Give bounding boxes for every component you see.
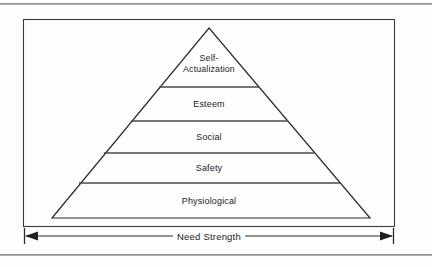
pyramid-diagram <box>0 0 432 267</box>
axis-arrowhead-right <box>380 232 393 241</box>
figure-page: Self- Actualization Esteem Social Safety… <box>0 0 432 267</box>
axis-arrowhead-left <box>25 232 38 241</box>
axis-label-need-strength: Need Strength <box>173 231 245 242</box>
figure-frame <box>24 20 395 227</box>
pyramid-outline <box>52 28 370 218</box>
